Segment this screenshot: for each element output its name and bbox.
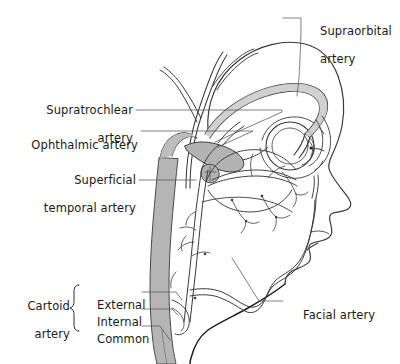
ophthalmic-artery-branch-up2 — [222, 126, 244, 146]
small-hook-branch-1 — [181, 236, 186, 251]
label-ophthalmic-line1: Ophthalmic artery — [31, 138, 138, 152]
superficial-temporal-artery-parietal-br — [208, 176, 297, 186]
label-supraorbital-line2: artery — [320, 52, 356, 66]
label-carotid-artery-group: Cartoid artery — [0, 285, 70, 355]
carotid-group-brace — [70, 285, 79, 331]
label-carotid-common: Common — [82, 318, 149, 360]
vessel-node — [275, 216, 277, 218]
label-carotid-line2: artery — [35, 327, 71, 341]
vessel-node — [245, 220, 247, 222]
vessel-node — [261, 195, 264, 198]
vessel-node — [231, 199, 234, 202]
buccal-branch-network-1c — [241, 221, 246, 233]
label-supraorbital-artery: Supraorbital artery — [305, 10, 392, 80]
buccal-branch-network-3c — [293, 194, 296, 207]
buccal-branch-network-2b — [276, 215, 290, 218]
label-facial-artery: Facial artery — [288, 294, 375, 336]
ophthalmic-to-orbit-connection — [243, 147, 268, 160]
label-supratrochlear-line1: Supratrochlear — [46, 103, 133, 117]
leader-line-facial — [232, 258, 283, 301]
label-superficial-temporal-line2: temporal artery — [44, 201, 136, 215]
supratrochlear-branch-anterior — [160, 70, 197, 122]
buccal-branch-network-3 — [282, 172, 296, 194]
eye-center-dot — [309, 146, 312, 149]
carotid-bifurcation — [172, 300, 189, 335]
label-superficial-temporal-artery: Superficial temporal artery — [0, 159, 136, 229]
anatomy-figure: Supraorbital artery Supratrochlear arter… — [0, 0, 400, 364]
label-facial-line1: Facial artery — [303, 308, 375, 322]
label-carotid-common-text: Common — [97, 332, 149, 346]
angular-artery-terminal — [316, 175, 318, 198]
eye-inner-circle — [272, 128, 308, 164]
buccal-branch-network-3b — [296, 192, 308, 195]
label-superficial-temporal-line1: Superficial — [74, 173, 136, 187]
small-hook-branch-2 — [186, 212, 195, 225]
buccal-branch-network-2c — [273, 217, 276, 231]
buccal-branch-network-1 — [232, 200, 246, 221]
common-carotid-artery-band — [150, 158, 178, 364]
carotid-bifurcation-inner — [172, 308, 184, 331]
label-carotid-line1: Cartoid — [27, 299, 70, 313]
lingual-branch-stub — [192, 252, 210, 256]
temporal-arch-loop-lower — [208, 190, 292, 212]
superior-thyroid-stub — [171, 272, 176, 288]
jaw-outline — [190, 284, 285, 364]
angular-artery-terminal-wall2 — [312, 176, 314, 198]
supraorbital-vessel-shade — [205, 84, 327, 138]
upper-lip-line — [311, 231, 329, 234]
label-supraorbital-line1: Supraorbital — [320, 24, 392, 38]
vessel-node — [204, 253, 207, 256]
vessel-node — [194, 297, 197, 300]
buccal-branch-network-1b — [246, 221, 259, 223]
